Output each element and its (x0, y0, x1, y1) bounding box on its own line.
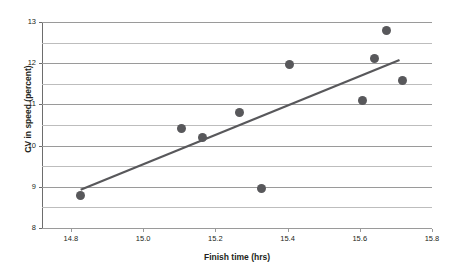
x-tick-label: 15.2 (195, 234, 235, 243)
gridline-major (42, 22, 432, 23)
gridline-major (42, 187, 432, 188)
y-tick-mark (39, 187, 42, 188)
plot-area (42, 22, 432, 228)
x-tick-mark (215, 229, 216, 232)
x-tick-mark (71, 229, 72, 232)
x-axis-title: Finish time (hrs) (42, 252, 432, 262)
data-point (382, 26, 391, 35)
x-tick-label: 15.4 (268, 234, 308, 243)
data-point (235, 108, 244, 117)
y-tick-mark (39, 22, 42, 23)
gridline-major (42, 146, 432, 147)
data-point (76, 191, 85, 200)
data-point (370, 54, 379, 63)
data-point (358, 96, 367, 105)
gridline-minor (42, 125, 432, 126)
x-tick-label: 15.6 (340, 234, 380, 243)
y-tick-label: 8 (14, 224, 36, 232)
y-tick-mark (39, 63, 42, 64)
data-point (285, 60, 294, 69)
x-tick-mark (432, 229, 433, 232)
x-tick-label: 14.8 (51, 234, 91, 243)
gridline-minor (42, 84, 432, 85)
gridline-minor (42, 43, 432, 44)
y-tick-mark (39, 146, 42, 147)
gridline-minor (42, 166, 432, 167)
data-point (198, 133, 207, 142)
x-tick-mark (360, 229, 361, 232)
x-tick-mark (143, 229, 144, 232)
y-tick-mark (39, 104, 42, 105)
x-axis-line (42, 228, 432, 229)
y-tick-label: 13 (14, 18, 36, 26)
data-point (177, 124, 186, 133)
y-tick-mark (39, 228, 42, 229)
x-tick-label: 15.8 (412, 234, 452, 243)
x-tick-mark (288, 229, 289, 232)
x-tick-label: 15.0 (123, 234, 163, 243)
gridline-major (42, 104, 432, 105)
data-point (398, 76, 407, 85)
gridline-minor (42, 207, 432, 208)
y-axis-title: CV in speed (percent) (23, 29, 33, 189)
data-point (257, 184, 266, 193)
gridline-major (42, 63, 432, 64)
scatter-chart: 8910111213 14.815.015.215.415.615.8 Fini… (0, 0, 459, 276)
